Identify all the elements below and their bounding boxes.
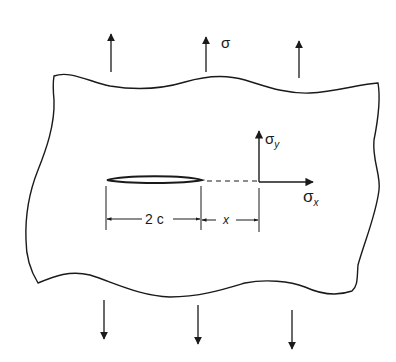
- plate-outline: [26, 74, 379, 297]
- crack-diagram: σ σy σx 2 c x: [0, 0, 396, 362]
- crack-length-label: 2 c: [145, 211, 164, 227]
- bottom-stress-arrows: [104, 300, 292, 349]
- sigma-x-label: σx: [303, 187, 320, 208]
- remote-stress-label: σ: [221, 34, 231, 51]
- distance-label: x: [222, 213, 230, 227]
- crack: [107, 176, 202, 183]
- sigma-y-label: σy: [265, 130, 280, 150]
- top-stress-arrows: [111, 34, 299, 78]
- dimension-lines: [106, 186, 259, 232]
